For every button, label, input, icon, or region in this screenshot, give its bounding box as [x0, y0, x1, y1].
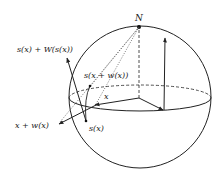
label-s-x-plus-w: s(x + w(x))	[84, 71, 128, 80]
s-x-dot	[85, 120, 88, 123]
sphere-diagram: N s(x) + W(s(x)) s(x + w(x)) x x + w(x) …	[0, 0, 219, 178]
label-s-plus-W: s(x) + W(s(x))	[17, 45, 73, 54]
normal-arrow	[164, 38, 165, 110]
label-s-x: s(x)	[89, 124, 104, 133]
equator-front	[69, 98, 211, 111]
radius-right	[139, 98, 163, 110]
projection-line-2	[96, 27, 139, 104]
geodesic-arc	[86, 86, 91, 121]
s-x-plus-w-dot	[89, 85, 92, 88]
sphere-outline	[69, 26, 211, 168]
x-plus-w-arrow	[59, 105, 96, 124]
radius-x	[95, 98, 139, 105]
label-x: x	[104, 92, 109, 101]
label-north-pole: N	[134, 13, 144, 23]
label-x-plus-w: x + w(x)	[15, 121, 49, 130]
